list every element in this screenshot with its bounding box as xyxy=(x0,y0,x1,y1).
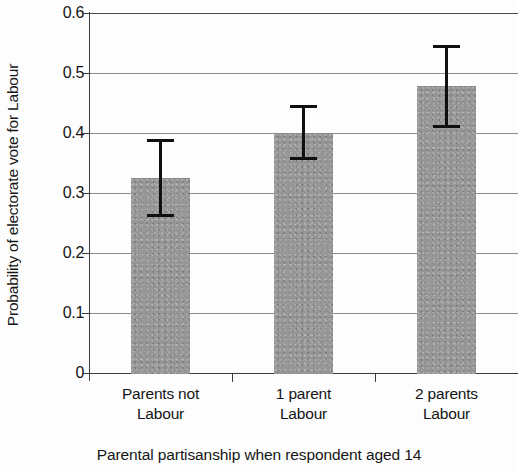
gridline xyxy=(89,13,518,14)
error-bar-cap-upper xyxy=(290,105,317,108)
y-axis-tick-mark xyxy=(82,133,90,134)
error-bar-cap-lower xyxy=(433,125,460,128)
error-bar-stem xyxy=(302,105,305,160)
x-axis-tick-mark xyxy=(375,374,376,382)
plot-area xyxy=(89,13,518,373)
y-axis-tick-mark xyxy=(82,13,90,14)
x-axis-category-label-line2: Labour xyxy=(375,404,518,424)
y-axis-tick-labels: 00.10.20.30.40.50.6 xyxy=(28,0,84,473)
x-axis-category-label-line2: Labour xyxy=(89,404,232,424)
x-axis-category-label: 1 parentLabour xyxy=(232,384,375,424)
error-bar xyxy=(417,45,476,128)
error-bar-stem xyxy=(445,45,448,128)
bar xyxy=(417,86,476,374)
y-axis-title: Probability of electorate vote for Labou… xyxy=(0,0,26,390)
x-axis-origin-tick-mark xyxy=(89,366,90,381)
error-bar-stem xyxy=(159,139,162,217)
x-axis-tick-mark xyxy=(232,374,233,382)
error-bar xyxy=(131,139,190,217)
x-axis-category-label: 2 parentsLabour xyxy=(375,384,518,424)
error-bar-cap-lower xyxy=(147,214,174,217)
y-axis-title-text: Probability of electorate vote for Labou… xyxy=(4,64,22,326)
y-axis-tick-mark xyxy=(82,313,90,314)
y-axis-tick-mark xyxy=(82,193,90,194)
error-bar-cap-lower xyxy=(290,157,317,160)
y-axis-tick-label: 0.5 xyxy=(32,64,84,82)
y-axis-tick-label: 0.3 xyxy=(32,184,84,202)
x-axis-category-label-line2: Labour xyxy=(232,404,375,424)
y-axis-tick-label: 0.4 xyxy=(32,124,84,142)
error-bar-cap-upper xyxy=(433,45,460,48)
x-axis-category-label-line1: 1 parent xyxy=(232,384,375,404)
y-axis-tick-label: 0.1 xyxy=(32,304,84,322)
bar-chart-figure: Probability of electorate vote for Labou… xyxy=(0,0,518,473)
error-bar-cap-upper xyxy=(147,139,174,142)
y-axis-tick-label: 0.6 xyxy=(32,4,84,22)
bar xyxy=(274,133,333,374)
error-bar xyxy=(274,105,333,160)
x-axis-category-label-line1: 2 parents xyxy=(375,384,518,404)
x-axis-category-label: Parents notLabour xyxy=(89,384,232,424)
y-axis-tick-label: 0 xyxy=(32,364,84,382)
x-axis-category-label-line1: Parents not xyxy=(89,384,232,404)
y-axis-tick-mark xyxy=(82,73,90,74)
x-axis-title: Parental partisanship when respondent ag… xyxy=(0,446,518,464)
y-axis-tick-mark xyxy=(82,253,90,254)
y-axis-tick-label: 0.2 xyxy=(32,244,84,262)
